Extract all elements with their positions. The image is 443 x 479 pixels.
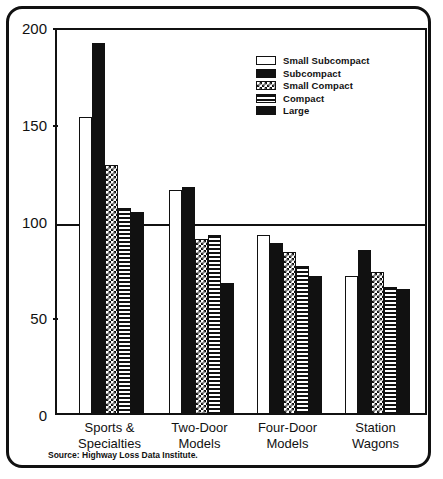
bar	[221, 283, 234, 413]
bar	[309, 276, 322, 413]
legend-label: Large	[283, 105, 309, 116]
legend-swatch-icon	[256, 94, 276, 103]
bar	[371, 272, 384, 413]
legend-swatch-icon	[256, 56, 276, 65]
x-axis-category-label: StationWagons	[316, 420, 436, 453]
y-tick-label: 150	[0, 117, 47, 132]
legend-item[interactable]: Large	[256, 105, 370, 116]
bar	[131, 212, 144, 413]
bar	[92, 43, 105, 413]
bar	[79, 117, 92, 413]
legend-swatch-icon	[256, 81, 276, 90]
legend-label: Subcompact	[283, 68, 341, 79]
chart-figure: Small SubcompactSubcompactSmall CompactC…	[0, 0, 443, 479]
plot-inner	[57, 30, 425, 413]
bar	[208, 235, 221, 413]
bar	[105, 165, 118, 413]
legend-item[interactable]: Small Subcompact	[256, 55, 370, 66]
bar	[397, 289, 410, 413]
legend-label: Compact	[283, 93, 324, 104]
y-tick-label: 200	[0, 21, 47, 36]
bar	[118, 208, 131, 413]
bar	[296, 266, 309, 413]
legend-item[interactable]: Small Compact	[256, 80, 370, 91]
legend-item[interactable]: Subcompact	[256, 68, 370, 79]
bar	[358, 250, 371, 413]
bar	[270, 243, 283, 413]
bar	[169, 190, 182, 413]
legend-item[interactable]: Compact	[256, 93, 370, 104]
bar	[195, 239, 208, 413]
y-tick-label: 0	[0, 408, 47, 423]
y-tick-mark	[53, 318, 58, 320]
legend-swatch-icon	[256, 69, 276, 78]
legend-swatch-icon	[256, 106, 276, 115]
bar	[384, 287, 397, 413]
bar	[257, 235, 270, 413]
bar	[283, 252, 296, 413]
bar-group	[79, 30, 144, 413]
y-tick-label: 100	[0, 214, 47, 229]
y-tick-label: 50	[0, 311, 47, 326]
plot-area	[55, 28, 427, 415]
chart-legend: Small SubcompactSubcompactSmall CompactC…	[256, 55, 370, 118]
y-tick-mark	[53, 125, 58, 127]
bar	[182, 187, 195, 413]
x-axis-category-line: Wagons	[316, 436, 436, 452]
legend-label: Small Subcompact	[283, 55, 370, 66]
x-axis-category-line: Station	[316, 420, 436, 436]
legend-label: Small Compact	[283, 80, 353, 91]
y-tick-mark	[53, 28, 58, 30]
bar-group	[169, 30, 234, 413]
bar	[345, 276, 358, 413]
